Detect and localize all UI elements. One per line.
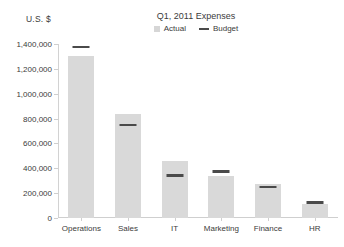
y-tick-mark: [54, 218, 58, 219]
legend-label-budget: Budget: [213, 24, 238, 33]
y-tick-label: 1,400,000: [16, 40, 52, 49]
x-tick-label: Sales: [118, 224, 138, 233]
chart-legend: Actual Budget: [0, 24, 344, 33]
bar-actual[interactable]: [302, 204, 328, 218]
y-tick-label: 400,000: [23, 164, 52, 173]
x-tick-label: Finance: [254, 224, 282, 233]
bar-actual[interactable]: [115, 114, 141, 218]
x-tick-mark: [221, 218, 222, 221]
bar-slot[interactable]: Marketing: [198, 44, 245, 218]
budget-marker[interactable]: [119, 124, 136, 127]
y-tick-label: 600,000: [23, 139, 52, 148]
bar-group: OperationsSalesITMarketingFinanceHR: [58, 44, 338, 218]
budget-marker[interactable]: [259, 186, 276, 189]
x-tick-label: Operations: [62, 224, 101, 233]
budget-marker[interactable]: [73, 46, 90, 49]
y-tick-label: 0: [48, 214, 52, 223]
legend-label-actual: Actual: [164, 24, 186, 33]
expenses-bar-chart: U.S. $ Q1, 2011 Expenses Actual Budget 0…: [0, 0, 344, 247]
x-tick-label: HR: [309, 224, 321, 233]
x-tick-label: IT: [171, 224, 178, 233]
chart-title: Q1, 2011 Expenses: [0, 11, 344, 21]
bar-actual[interactable]: [255, 184, 281, 218]
budget-marker[interactable]: [166, 174, 183, 177]
bar-slot[interactable]: Sales: [105, 44, 152, 218]
bar-actual[interactable]: [208, 176, 234, 218]
legend-swatch-budget-icon: [199, 28, 209, 30]
legend-item-budget: Budget: [199, 24, 238, 33]
plot-area: 0200,000400,000600,000800,0001,000,0001,…: [58, 44, 338, 218]
bar-slot[interactable]: Operations: [58, 44, 105, 218]
x-tick-label: Marketing: [204, 224, 239, 233]
budget-marker[interactable]: [213, 170, 230, 173]
bar-actual[interactable]: [162, 161, 188, 218]
bar-slot[interactable]: Finance: [245, 44, 292, 218]
legend-item-actual: Actual: [154, 24, 186, 33]
x-tick-mark: [268, 218, 269, 221]
legend-swatch-actual-icon: [154, 26, 160, 32]
y-tick-label: 1,200,000: [16, 64, 52, 73]
budget-marker[interactable]: [306, 201, 323, 204]
y-tick-label: 1,000,000: [16, 89, 52, 98]
y-tick-label: 800,000: [23, 114, 52, 123]
x-tick-mark: [175, 218, 176, 221]
bar-slot[interactable]: HR: [291, 44, 338, 218]
x-tick-mark: [128, 218, 129, 221]
x-tick-mark: [315, 218, 316, 221]
bar-actual[interactable]: [68, 56, 94, 218]
x-tick-mark: [81, 218, 82, 221]
bar-slot[interactable]: IT: [151, 44, 198, 218]
y-tick-label: 200,000: [23, 189, 52, 198]
